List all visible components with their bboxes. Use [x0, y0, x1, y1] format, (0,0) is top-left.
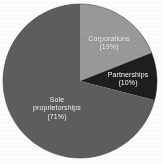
pie-chart-svg	[0, 0, 163, 164]
pie-chart-figure: Corporations (19%) Partnerships (10%) So…	[0, 0, 163, 164]
